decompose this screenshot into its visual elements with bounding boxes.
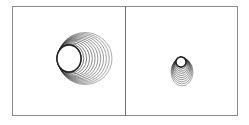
inner-ring [176,57,186,67]
figure-canvas [0,0,249,125]
inner-ring [57,45,81,72]
right-panel-rings [171,57,193,86]
left-panel-rings [57,33,112,85]
